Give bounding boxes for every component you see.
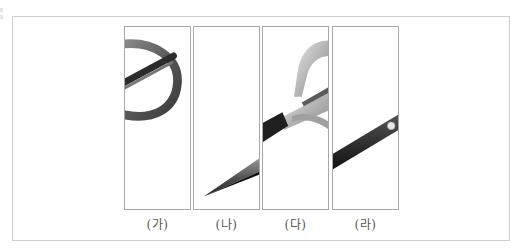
panel-ga — [124, 26, 191, 210]
panel-ra — [332, 26, 399, 210]
scissors-blade-rivet-image — [333, 27, 398, 209]
label-ra: (라) — [332, 215, 399, 232]
scissors-blade-tip-image — [194, 27, 259, 209]
panel-na — [193, 26, 260, 210]
corner-mark — [0, 8, 6, 22]
label-da: (다) — [262, 215, 329, 232]
scissors-handle-pivot-image — [263, 27, 328, 209]
figure-frame — [12, 16, 510, 241]
label-na: (나) — [193, 215, 260, 232]
panel-da — [262, 26, 329, 210]
scissors-handle-ring-image — [125, 27, 190, 209]
label-ga: (가) — [124, 215, 191, 232]
